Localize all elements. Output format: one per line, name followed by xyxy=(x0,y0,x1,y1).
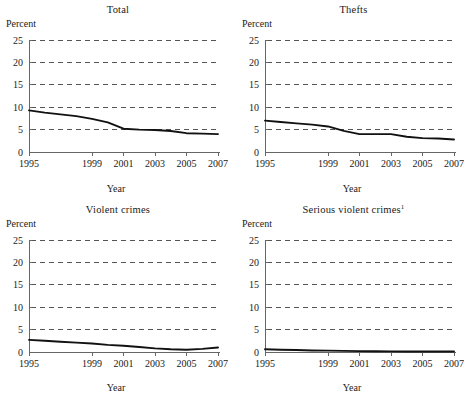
panel-title-text: Thefts xyxy=(339,4,367,15)
y-tick-label: 0 xyxy=(18,147,23,158)
x-tick-label: 1999 xyxy=(318,158,338,169)
x-tick-label: 2001 xyxy=(350,358,370,369)
x-axis-label: Year xyxy=(236,183,468,194)
y-tick-label: 10 xyxy=(249,302,259,313)
panel-title-superscript: 1 xyxy=(401,203,405,211)
x-tick-label: 1999 xyxy=(82,158,102,169)
y-tick-label: 0 xyxy=(18,347,23,358)
x-tick-label: 1995 xyxy=(255,158,275,169)
plot-area: 0510152025199519992001200320052007 xyxy=(236,30,471,170)
x-tick-label: 2005 xyxy=(177,158,197,169)
x-tick-label: 2007 xyxy=(208,158,228,169)
y-tick-label: 15 xyxy=(249,279,259,290)
axis-spine xyxy=(265,40,456,152)
series-line xyxy=(29,340,218,350)
x-tick-label: 2001 xyxy=(114,158,134,169)
x-tick-label: 2007 xyxy=(444,358,464,369)
x-tick-label: 2005 xyxy=(413,158,433,169)
x-tick-label: 2003 xyxy=(145,158,165,169)
y-tick-label: 5 xyxy=(254,124,259,135)
panel-title-text: Serious violent crimes xyxy=(302,204,400,215)
x-tick-label: 1995 xyxy=(255,358,275,369)
y-tick-label: 10 xyxy=(249,102,259,113)
panel-title-text: Violent crimes xyxy=(86,204,150,215)
panel-title: Thefts xyxy=(236,4,471,15)
chart-panel-thefts: Thefts Percent 0510152025199519992001200… xyxy=(236,0,471,200)
series-line xyxy=(265,349,454,351)
x-tick-label: 2007 xyxy=(444,158,464,169)
chart-panel-serious-violent-crimes: Serious violent crimes1 Percent 05101520… xyxy=(236,200,471,399)
y-tick-label: 20 xyxy=(13,57,23,68)
y-tick-label: 20 xyxy=(249,257,259,268)
x-tick-label: 2005 xyxy=(413,358,433,369)
y-axis-label: Percent xyxy=(242,18,272,29)
y-tick-label: 5 xyxy=(18,324,23,335)
y-tick-label: 5 xyxy=(18,124,23,135)
series-line xyxy=(29,110,218,134)
y-axis-label: Percent xyxy=(242,218,272,229)
panel-title: Serious violent crimes1 xyxy=(236,204,471,215)
x-tick-label: 1995 xyxy=(19,158,39,169)
plot-area: 0510152025199519992001200320052007 xyxy=(0,230,236,370)
y-axis-label: Percent xyxy=(6,218,36,229)
x-tick-label: 2003 xyxy=(381,358,401,369)
x-tick-label: 2005 xyxy=(177,358,197,369)
x-tick-label: 1999 xyxy=(318,358,338,369)
x-axis-label: Year xyxy=(0,183,232,194)
axis-spine xyxy=(29,40,220,152)
y-tick-label: 10 xyxy=(13,102,23,113)
x-axis-label: Year xyxy=(0,382,232,393)
axis-spine xyxy=(265,240,456,352)
x-tick-label: 1995 xyxy=(19,358,39,369)
x-tick-label: 2007 xyxy=(208,358,228,369)
y-tick-label: 25 xyxy=(249,35,259,46)
y-tick-label: 0 xyxy=(254,147,259,158)
plot-area: 0510152025199519992001200320052007 xyxy=(236,230,471,370)
axis-spine xyxy=(29,240,220,352)
x-axis-label: Year xyxy=(236,382,468,393)
chart-panel-total: Total Percent 05101520251995199920012003… xyxy=(0,0,236,200)
chart-panel-violent-crimes: Violent crimes Percent 05101520251995199… xyxy=(0,200,236,399)
panel-title: Violent crimes xyxy=(0,204,236,215)
panel-title-text: Total xyxy=(107,4,129,15)
panel-title: Total xyxy=(0,4,236,15)
y-tick-label: 25 xyxy=(249,235,259,246)
y-tick-label: 10 xyxy=(13,302,23,313)
y-tick-label: 25 xyxy=(13,35,23,46)
y-tick-label: 5 xyxy=(254,324,259,335)
x-tick-label: 2001 xyxy=(350,158,370,169)
y-tick-label: 15 xyxy=(13,279,23,290)
x-tick-label: 2003 xyxy=(145,358,165,369)
x-tick-label: 2003 xyxy=(381,158,401,169)
y-tick-label: 25 xyxy=(13,235,23,246)
y-tick-label: 20 xyxy=(13,257,23,268)
y-tick-label: 20 xyxy=(249,57,259,68)
x-tick-label: 1999 xyxy=(82,358,102,369)
y-tick-label: 15 xyxy=(249,79,259,90)
chart-grid: Total Percent 05101520251995199920012003… xyxy=(0,0,471,399)
x-tick-label: 2001 xyxy=(114,358,134,369)
plot-area: 0510152025199519992001200320052007 xyxy=(0,30,236,170)
y-tick-label: 15 xyxy=(13,79,23,90)
y-axis-label: Percent xyxy=(6,18,36,29)
y-tick-label: 0 xyxy=(254,347,259,358)
